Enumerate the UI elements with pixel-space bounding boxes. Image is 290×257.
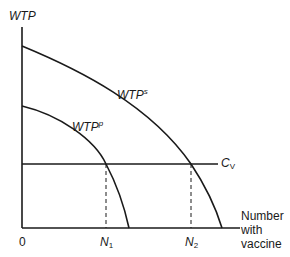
n2-label-sub: 2 bbox=[194, 241, 198, 250]
n1-label-main: N bbox=[100, 235, 109, 249]
wtp-social-label: WTPs bbox=[117, 85, 148, 102]
cost-line-label: CV bbox=[221, 157, 235, 173]
wtp-private-label-main: WTP bbox=[72, 120, 99, 134]
x-axis-label-line-2: with bbox=[241, 223, 284, 237]
origin-label: 0 bbox=[19, 236, 26, 249]
n1-label: N1 bbox=[100, 236, 113, 252]
n2-label: N2 bbox=[185, 236, 198, 252]
cost-line-label-main: C bbox=[221, 156, 230, 170]
x-axis-label-line-1: Number bbox=[241, 209, 284, 223]
wtp-social-label-sup: s bbox=[144, 87, 148, 96]
wtp-private-label-sup: p bbox=[99, 119, 103, 128]
x-axis-label: Number with vaccine bbox=[241, 209, 284, 251]
y-axis-label: WTP bbox=[9, 10, 36, 23]
n1-label-sub: 1 bbox=[109, 241, 113, 250]
wtp-social-label-main: WTP bbox=[117, 88, 144, 102]
n2-label-main: N bbox=[185, 235, 194, 249]
cost-line-label-sub: V bbox=[230, 162, 235, 171]
wtp-private-label: WTPp bbox=[72, 117, 103, 134]
x-axis-label-line-3: vaccine bbox=[241, 237, 284, 251]
